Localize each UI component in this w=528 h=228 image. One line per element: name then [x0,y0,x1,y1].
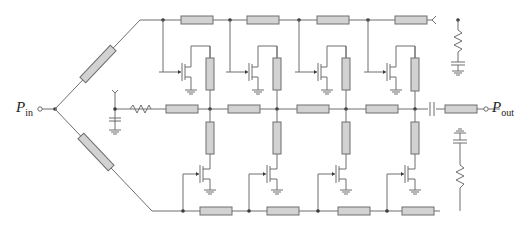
output-label-sub: out [501,107,514,118]
lower-input-branch [55,109,440,211]
bottom-transistor-2 [249,165,283,211]
input-port-label: Pin [16,99,33,118]
top-transistor-1 [159,20,210,94]
top-gate-termination [451,20,465,75]
middle-drain-line [109,90,500,134]
bottom-transistor-1 [183,165,216,211]
bottom-transistor-3 [318,165,352,211]
input-label-main: P [16,99,25,115]
bottom-transistor-4 [387,165,421,211]
top-transistor-3 [295,20,346,94]
output-port-label: Pout [492,99,514,118]
input-label-sub: in [25,107,33,118]
upper-input-branch [55,16,436,109]
output-label-main: P [492,99,501,115]
bottom-gate-termination [453,129,467,211]
top-transistor-4 [364,20,415,94]
top-transistor-2 [226,20,277,94]
input-port [38,107,57,111]
bottom-drain-stubs [206,109,419,165]
circuit-schematic [0,0,528,228]
